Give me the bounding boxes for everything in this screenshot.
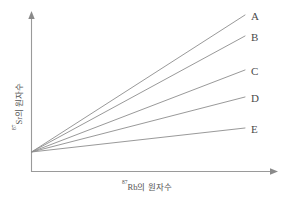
x-axis-arrow-icon: [270, 168, 278, 174]
line-label-c: C: [251, 65, 258, 77]
y-axis-title: 87Sr의 원자수: [11, 83, 25, 130]
svg-text:87Rb의 원자수: 87Rb의 원자수: [122, 179, 172, 193]
line-label-e: E: [251, 123, 258, 135]
y-axis-title-base: Sr의 원자수: [14, 83, 24, 125]
svg-text:87Sr의 원자수: 87Sr의 원자수: [11, 83, 25, 130]
isochron-diagram: A B C D E 87Rb의 원자수 87Sr의 원자수: [0, 0, 289, 204]
x-axis: [32, 168, 279, 174]
y-axis-arrow-icon: [28, 11, 34, 19]
plot-area: A B C D E 87Rb의 원자수 87Sr의 원자수: [0, 0, 289, 204]
isochron-labels: A B C D E: [251, 10, 259, 135]
isochron-line-d: [32, 97, 246, 152]
isochron-lines: [32, 15, 246, 152]
line-label-b: B: [251, 31, 258, 43]
x-axis-title: 87Rb의 원자수: [122, 179, 172, 193]
line-label-a: A: [251, 10, 259, 22]
y-axis: [28, 11, 34, 172]
isochron-line-b: [32, 36, 246, 152]
x-axis-title-base: Rb의 원자수: [128, 182, 172, 192]
line-label-d: D: [251, 92, 259, 104]
